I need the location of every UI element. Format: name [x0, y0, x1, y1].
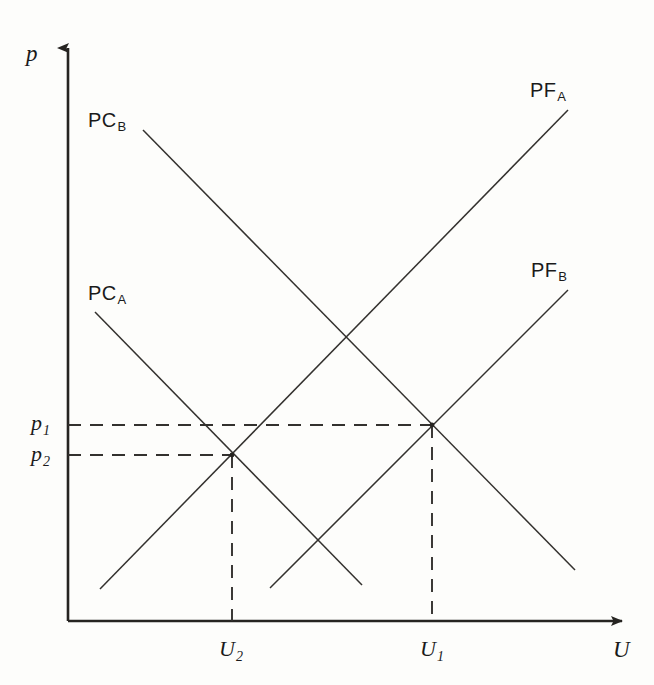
plot-canvas	[0, 0, 654, 685]
equilibrium-point-e1	[430, 423, 435, 428]
x-tick-label-u1: U1	[420, 638, 443, 660]
curve-label-pc-b-text: PC	[88, 109, 116, 131]
y-axis-label-text: p	[26, 41, 38, 66]
x-tick-label-u2-sub: 2	[236, 649, 243, 664]
y-tick-label-p2-sub: 2	[43, 454, 50, 469]
x-tick-label-u2-text: U	[219, 636, 235, 661]
y-tick-label-p2: p 2	[31, 443, 49, 465]
curve-label-pc-b: PCB	[88, 110, 125, 130]
curve-label-pc-a-sub: A	[117, 292, 126, 307]
curve-pf-a	[100, 110, 568, 589]
curve-label-pf-b-sub: B	[558, 269, 567, 284]
curve-label-pf-a-sub: A	[557, 89, 566, 104]
phillips-curve-figure: p U PCB PCA PFA PFB p 1 p 2 U2 U1	[0, 0, 654, 685]
curve-label-pf-a-text: PF	[530, 79, 556, 101]
x-tick-label-u1-text: U	[420, 636, 436, 661]
y-tick-label-p2-text: p	[31, 441, 42, 466]
curve-label-pf-a: PFA	[530, 80, 565, 100]
y-tick-label-p1-text: p	[31, 410, 42, 435]
curve-label-pc-b-sub: B	[117, 119, 126, 134]
y-axis-label: p	[26, 42, 38, 65]
curve-pc-a	[95, 312, 362, 585]
curve-label-pc-a: PCA	[88, 283, 125, 303]
x-axis-label: U	[613, 638, 630, 661]
y-tick-label-p1: p 1	[31, 412, 49, 434]
curve-pf-b	[270, 290, 568, 588]
y-tick-label-p1-sub: 1	[43, 423, 50, 438]
curve-label-pf-b: PFB	[531, 260, 566, 280]
curve-label-pc-a-text: PC	[88, 282, 116, 304]
equilibrium-point-e2	[230, 453, 235, 458]
curve-pc-b	[143, 130, 575, 570]
x-tick-label-u2: U2	[219, 638, 242, 660]
curve-label-pf-b-text: PF	[531, 259, 557, 281]
x-tick-label-u1-sub: 1	[437, 649, 444, 664]
